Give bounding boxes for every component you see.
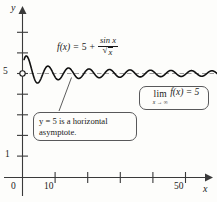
limit-expression: lim x → ∞ f(x) = 5: [140, 87, 208, 109]
formula-fraction: sin x √x: [98, 36, 118, 57]
x-tick-label-50: 50: [174, 181, 184, 191]
open-circle-marker: [20, 71, 25, 76]
asymptote-callout-line2: asymptote.: [39, 127, 131, 138]
limit-operator-stack: lim x → ∞: [153, 90, 168, 106]
figure-container: y x 5 1 0 10 50 f(x) = 5 + sin x √x y = …: [0, 0, 217, 202]
y-tick-label-5: 5: [3, 66, 8, 76]
limit-body: f(x) = 5: [170, 87, 199, 98]
function-formula: f(x) = 5 + sin x √x: [57, 36, 118, 57]
formula-lhs: f(x): [57, 41, 70, 52]
origin-label: 0: [11, 181, 16, 191]
x-axis-label: x: [203, 183, 207, 194]
limit-callout-box: lim x → ∞ f(x) = 5: [139, 86, 209, 110]
formula-plus: +: [89, 41, 96, 52]
y-axis-arrowhead: [19, 6, 27, 14]
limit-subscript: x → ∞: [153, 100, 168, 106]
x-axis-arrowhead: [205, 174, 213, 182]
y-axis-label: y: [11, 2, 15, 13]
formula-constant: 5: [82, 41, 87, 52]
formula-denominator: √x: [101, 46, 116, 57]
asymptote-callout-box: y = 5 is a horizontal asymptote.: [33, 112, 137, 141]
radical-argument: x: [108, 47, 114, 57]
asymptote-callout-line1: y = 5 is a horizontal: [39, 116, 131, 127]
x-tick-label-10: 10: [44, 181, 54, 191]
formula-equals: =: [72, 41, 79, 52]
callout-leader-line: [59, 78, 72, 112]
y-tick-label-1: 1: [5, 149, 10, 159]
formula-numerator: sin x: [98, 36, 118, 46]
function-curve: [24, 56, 217, 83]
